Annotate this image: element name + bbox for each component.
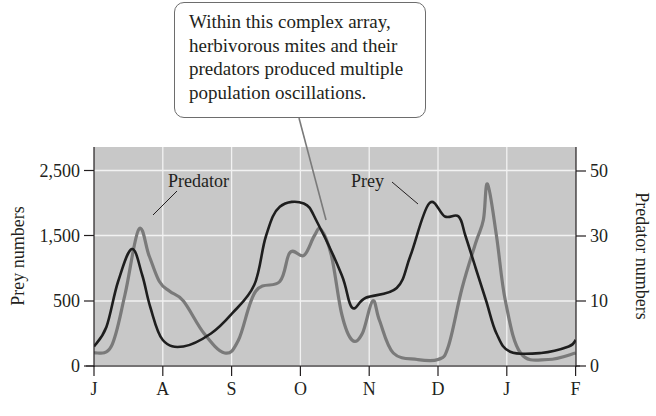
predator-label: Predator bbox=[168, 171, 229, 191]
callout-line: Within this complex array, bbox=[189, 10, 425, 34]
left-tick-label: 1,500 bbox=[40, 226, 81, 246]
right-axis-title: Predator numbers bbox=[631, 192, 652, 319]
callout-line: population oscillations. bbox=[189, 81, 425, 105]
x-tick-label: N bbox=[363, 379, 376, 399]
callout-line: herbivorous mites and their bbox=[189, 34, 425, 58]
x-tick-label: F bbox=[571, 379, 581, 399]
right-tick-label: 10 bbox=[590, 291, 608, 311]
x-tick-label: O bbox=[294, 379, 307, 399]
prey-label: Prey bbox=[351, 171, 384, 191]
left-axis-title: Prey numbers bbox=[8, 206, 29, 305]
left-tick-label: 2,500 bbox=[40, 161, 81, 181]
left-tick-label: 0 bbox=[71, 356, 80, 376]
x-tick-label: D bbox=[432, 379, 445, 399]
x-tick-label: J bbox=[503, 379, 510, 399]
callout-box: Within this complex array, herbivorous m… bbox=[174, 2, 426, 118]
right-tick-label: 0 bbox=[590, 356, 599, 376]
left-tick-label: 500 bbox=[53, 291, 80, 311]
callout-line: predators produced multiple bbox=[189, 57, 425, 81]
right-tick-label: 50 bbox=[590, 161, 608, 181]
x-tick-label: S bbox=[227, 379, 237, 399]
x-tick-label: J bbox=[90, 379, 97, 399]
right-tick-label: 30 bbox=[590, 226, 608, 246]
x-tick-label: A bbox=[156, 379, 169, 399]
